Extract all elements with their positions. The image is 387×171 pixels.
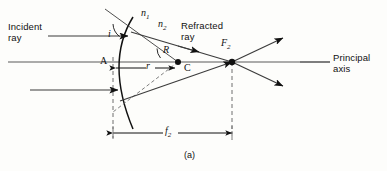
focal-point-marker bbox=[229, 59, 235, 65]
refractive-index-n2-label: n2 bbox=[158, 18, 167, 32]
diverging-ray-lower bbox=[232, 62, 283, 86]
angle-of-refraction-label: R bbox=[163, 44, 169, 55]
radius-label: r bbox=[146, 60, 150, 71]
refractive-index-n2-subscript: 2 bbox=[163, 24, 167, 32]
incident-ray-label-line1: Incident bbox=[8, 21, 42, 32]
center-of-curvature-point bbox=[175, 59, 181, 65]
refraction-diagram-figure: Incident ray Refracted ray Principal axi… bbox=[0, 0, 387, 171]
focal-point-label: F2 bbox=[221, 37, 231, 51]
refracted-ray-label-line1: Refracted bbox=[181, 20, 223, 31]
focal-length-dimension-line bbox=[113, 126, 232, 140]
focal-point-subscript: 2 bbox=[227, 43, 231, 51]
refractive-index-n1-label: n1 bbox=[141, 7, 150, 21]
diverging-ray-upper bbox=[232, 38, 283, 62]
focal-length-subscript: 2 bbox=[168, 131, 172, 139]
figure-caption: (a) bbox=[184, 150, 195, 160]
refractive-index-n1-subscript: 1 bbox=[146, 13, 150, 21]
center-of-curvature-label: C bbox=[184, 62, 191, 73]
vertex-point-label: A bbox=[100, 55, 107, 66]
angle-of-incidence-arc bbox=[113, 24, 120, 37]
refracting-surface-arc bbox=[119, 17, 133, 129]
angle-of-incidence-label: i bbox=[108, 28, 111, 39]
principal-axis-label-line1: Principal bbox=[333, 52, 370, 63]
angle-of-refraction-arc bbox=[157, 49, 161, 59]
incident-ray-label-line2: ray bbox=[8, 32, 22, 43]
focal-length-label: f2 bbox=[165, 125, 171, 139]
principal-axis-label-line2: axis bbox=[333, 63, 350, 74]
refracted-ray-upper-arrowhead bbox=[178, 46, 199, 52]
refracted-ray-label-line2: ray bbox=[181, 31, 195, 42]
